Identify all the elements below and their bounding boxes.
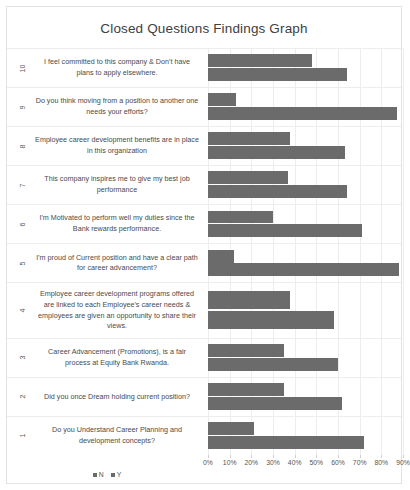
- chart-title: Closed Questions Findings Graph: [7, 21, 401, 36]
- gridline-90%: [403, 48, 404, 455]
- category-number: 3: [15, 339, 31, 377]
- legend-swatch-icon: [111, 473, 115, 477]
- x-tickmark: [403, 455, 404, 458]
- bar-series-n: [208, 422, 254, 435]
- bar-series-y: [208, 397, 342, 410]
- x-tickmark: [360, 455, 361, 458]
- x-tickmark: [295, 455, 296, 458]
- x-tickmark: [316, 455, 317, 458]
- x-tick-label: 50%: [310, 459, 324, 466]
- bar-series-y: [208, 185, 347, 198]
- legend-label: Y: [117, 471, 122, 478]
- x-tickmark: [273, 455, 274, 458]
- bar-series-y: [208, 224, 362, 237]
- bar-series-y: [208, 311, 334, 330]
- bar-series-n: [208, 250, 234, 263]
- category-number: 2: [15, 378, 31, 416]
- category-label: This company inspires me to give my best…: [33, 166, 201, 204]
- category-bars: [208, 378, 401, 416]
- legend-swatch-icon: [93, 473, 97, 477]
- x-tickmark: [381, 455, 382, 458]
- category-label: I'm proud of Current position and have a…: [33, 244, 201, 282]
- category-label: Did you once Dream holding current posit…: [33, 378, 201, 416]
- category-number: 7: [15, 166, 31, 204]
- chart-category-row: 3Career Advancement (Promotions), is a f…: [7, 338, 401, 377]
- category-label: Employee career development programs off…: [33, 283, 201, 337]
- x-tick-label: 0%: [203, 459, 213, 466]
- bar-series-n: [208, 93, 236, 106]
- x-axis: 0%10%20%30%40%50%60%70%80%90%: [208, 455, 403, 471]
- category-number: 5: [15, 244, 31, 282]
- bar-series-y: [208, 263, 399, 276]
- chart-category-row: 8Employee career development benefits ar…: [7, 126, 401, 165]
- chart-legend: NY: [7, 471, 207, 478]
- x-tick-label: 20%: [245, 459, 259, 466]
- category-label: Career Advancement (Promotions), is a fa…: [33, 339, 201, 377]
- chart-category-row: 10I feel committed to this company & Don…: [7, 48, 401, 87]
- category-number: 6: [15, 205, 31, 243]
- chart-category-row: 2Did you once Dream holding current posi…: [7, 377, 401, 416]
- x-tickmark: [208, 455, 209, 458]
- bar-series-y: [208, 68, 347, 81]
- bar-series-n: [208, 383, 284, 396]
- bar-series-y: [208, 146, 345, 159]
- category-bars: [208, 49, 401, 87]
- chart-category-row: 5I'm proud of Current position and have …: [7, 243, 401, 282]
- bar-series-n: [208, 54, 312, 67]
- category-bars: [208, 283, 401, 337]
- category-number: 8: [15, 127, 31, 165]
- chart-category-row: 1Do you Understand Career Planning and d…: [7, 416, 401, 455]
- chart-category-row: 4Employee career development programs of…: [7, 282, 401, 337]
- category-number: 10: [15, 49, 31, 87]
- category-bars: [208, 88, 401, 126]
- chart-category-row: 7This company inspires me to give my bes…: [7, 165, 401, 204]
- category-label: I feel committed to this company & Don't…: [33, 49, 201, 87]
- x-tickmark: [251, 455, 252, 458]
- category-bars: [208, 166, 401, 204]
- chart-category-row: 6I'm Motivated to perform well my duties…: [7, 204, 401, 243]
- category-bars: [208, 417, 401, 455]
- bar-series-y: [208, 436, 364, 449]
- legend-label: N: [99, 471, 104, 478]
- x-tick-label: 10%: [223, 459, 237, 466]
- category-label: Employee career development benefits are…: [33, 127, 201, 165]
- bar-series-n: [208, 132, 290, 145]
- category-bars: [208, 205, 401, 243]
- category-label: I'm Motivated to perform well my duties …: [33, 205, 201, 243]
- chart-plot-body: 10I feel committed to this company & Don…: [7, 48, 401, 455]
- legend-item-y[interactable]: Y: [111, 471, 122, 478]
- legend-item-n[interactable]: N: [93, 471, 104, 478]
- bar-series-y: [208, 358, 338, 371]
- chart-frame: Closed Questions Findings Graph 10I feel…: [6, 6, 402, 484]
- category-bars: [208, 244, 401, 282]
- category-bars: [208, 339, 401, 377]
- category-label: Do you Understand Career Planning and de…: [33, 417, 201, 455]
- bar-series-n: [208, 344, 284, 357]
- category-number: 4: [15, 283, 31, 337]
- bar-series-n: [208, 291, 290, 310]
- x-tickmark: [338, 455, 339, 458]
- x-tick-label: 40%: [288, 459, 302, 466]
- x-tick-label: 30%: [266, 459, 280, 466]
- x-tickmark: [230, 455, 231, 458]
- bar-series-n: [208, 211, 273, 224]
- x-tick-label: 90%: [396, 459, 410, 466]
- x-tick-label: 80%: [375, 459, 389, 466]
- category-number: 9: [15, 88, 31, 126]
- bar-series-n: [208, 171, 288, 184]
- chart-category-row: 9Do you think moving from a position to …: [7, 87, 401, 126]
- bar-series-y: [208, 107, 397, 120]
- x-tick-label: 70%: [353, 459, 367, 466]
- category-number: 1: [15, 417, 31, 455]
- category-bars: [208, 127, 401, 165]
- x-tick-label: 60%: [331, 459, 345, 466]
- category-label: Do you think moving from a position to a…: [33, 88, 201, 126]
